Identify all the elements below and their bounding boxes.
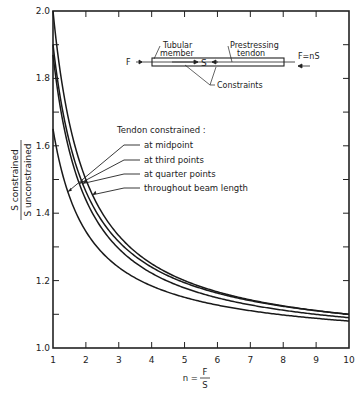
legend-item: throughout beam length <box>144 183 248 193</box>
svg-text:F: F <box>126 58 131 67</box>
chart: 123456789101.01.21.41.61.82.0 Tendon con… <box>0 0 361 398</box>
x-tick-label: 9 <box>313 355 319 365</box>
x-tick-label: 4 <box>149 355 155 365</box>
svg-text:S unconstrained: S unconstrained <box>23 143 33 216</box>
legend-item: at quarter points <box>144 169 216 179</box>
svg-text:S: S <box>202 380 207 390</box>
x-tick-label: 10 <box>343 355 355 365</box>
x-tick-label: 2 <box>83 355 89 365</box>
svg-text:tendon: tendon <box>237 49 265 58</box>
y-tick-label: 1.4 <box>36 208 51 218</box>
svg-text:member: member <box>160 49 195 58</box>
x-tick-label: 7 <box>247 355 253 365</box>
x-tick-label: 8 <box>280 355 286 365</box>
x-axis-label: n =FS <box>183 367 210 390</box>
inset-diagram: FSF=nSTubularmemberPrestressingtendonCon… <box>126 41 319 90</box>
legend-item: at third points <box>144 155 204 165</box>
y-tick-label: 1.0 <box>36 343 51 353</box>
x-tick-label: 3 <box>116 355 122 365</box>
svg-text:S: S <box>201 58 207 68</box>
x-tick-label: 6 <box>215 355 221 365</box>
y-tick-label: 1.2 <box>36 276 50 286</box>
y-tick-label: 1.8 <box>36 73 51 83</box>
legend-title: Tendon constrained : <box>116 125 206 135</box>
y-tick-label: 2.0 <box>36 6 51 16</box>
legend: Tendon constrained :at midpointat third … <box>68 125 248 195</box>
x-tick-label: 1 <box>50 355 56 365</box>
svg-text:S constrained: S constrained <box>10 149 20 211</box>
constraints-label: Constraints <box>217 81 263 90</box>
x-tick-label: 5 <box>182 355 188 365</box>
svg-text:F: F <box>203 367 208 377</box>
curve-at-quarter-points <box>53 45 349 315</box>
legend-item: at midpoint <box>144 140 194 150</box>
svg-text:F=nS: F=nS <box>298 52 319 61</box>
svg-text:n =: n = <box>183 373 198 383</box>
y-tick-label: 1.6 <box>36 141 51 151</box>
y-axis-label: S constrainedS unconstrained <box>10 140 33 220</box>
